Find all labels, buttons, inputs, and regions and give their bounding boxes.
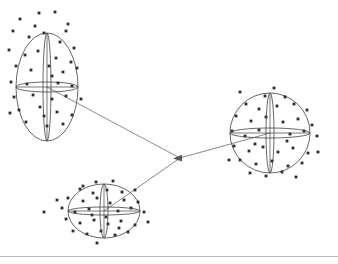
datapoint (118, 227, 121, 230)
datapoint (67, 23, 70, 26)
datapoint (28, 36, 31, 39)
datapoint (282, 121, 285, 124)
datapoint (62, 71, 65, 74)
datapoint (70, 61, 73, 64)
datapoint (277, 151, 280, 154)
datapoint (276, 105, 279, 108)
datapoint (15, 65, 18, 68)
datapoint (264, 95, 267, 98)
datapoint (56, 199, 59, 202)
datapoint (112, 180, 115, 183)
datapoint (82, 200, 85, 203)
datapoint (254, 143, 257, 146)
datapoint (76, 67, 79, 70)
datapoint (239, 159, 242, 162)
datapoint (65, 30, 68, 33)
datapoint (114, 234, 117, 237)
datapoint (86, 233, 89, 236)
connectors-layer (47, 87, 270, 211)
datapoint (71, 114, 74, 117)
datapoint (265, 175, 268, 178)
datapoint (109, 202, 112, 205)
datapoint (32, 94, 35, 97)
datapoint (92, 192, 95, 195)
datapoint (127, 231, 130, 234)
datapoint (24, 54, 27, 57)
datapoint (73, 47, 76, 50)
cluster-right-points (228, 87, 320, 179)
datapoint (12, 30, 15, 33)
clusters-layer (8, 11, 320, 245)
datapoint (56, 111, 59, 114)
datapoint (79, 222, 82, 225)
datapoint (120, 220, 123, 223)
datapoint (18, 109, 21, 112)
datapoint (10, 81, 13, 84)
datapoint (295, 176, 298, 179)
datapoint (37, 50, 40, 53)
datapoint (96, 242, 99, 245)
datapoint (38, 12, 41, 15)
datapoint (311, 124, 314, 127)
datapoint (9, 112, 12, 115)
datapoint (293, 103, 296, 106)
datapoint (80, 98, 83, 101)
connector-bottom-to-junction (104, 158, 180, 211)
datapoint (34, 25, 37, 28)
datapoint (25, 121, 28, 124)
datapoint (233, 145, 236, 148)
datapoint (134, 224, 137, 227)
connector-top-left-to-junction (47, 87, 180, 158)
datapoint (96, 197, 99, 200)
datapoint (249, 172, 252, 175)
datapoint (62, 123, 65, 126)
cluster-top-left-points (8, 11, 83, 128)
datapoint (43, 32, 46, 35)
datapoint (61, 207, 64, 210)
datapoint (48, 65, 51, 68)
datapoint (255, 163, 258, 166)
datapoint (65, 95, 68, 98)
datapoint (317, 151, 320, 154)
datapoint (134, 189, 137, 192)
junction-arrowhead (173, 155, 182, 162)
datapoint (301, 162, 304, 165)
datapoint (54, 11, 57, 14)
datapoint (292, 147, 295, 150)
datapoint (297, 118, 300, 121)
datapoint (239, 91, 242, 94)
datapoint (307, 152, 310, 155)
diagram-canvas (0, 0, 338, 264)
datapoint (245, 103, 248, 106)
datapoint (95, 181, 98, 184)
cluster-network-diagram (0, 0, 338, 264)
datapoint (143, 211, 146, 214)
cluster-top-left (8, 11, 83, 141)
datapoint (8, 49, 11, 52)
connector-junction-to-right (180, 133, 270, 158)
datapoint (273, 87, 276, 90)
datapoint (235, 115, 238, 118)
datapoint (30, 69, 33, 72)
cluster-right (228, 87, 320, 179)
datapoint (123, 199, 126, 202)
junction-node-dot (178, 156, 181, 159)
datapoint (306, 109, 309, 112)
datapoint (316, 135, 319, 138)
datapoint (248, 150, 251, 153)
datapoint (72, 230, 75, 233)
datapoint (107, 223, 110, 226)
datapoint (121, 191, 124, 194)
datapoint (284, 96, 287, 99)
datapoint (39, 106, 42, 109)
datapoint (59, 41, 62, 44)
datapoint (65, 218, 68, 221)
datapoint (43, 211, 46, 214)
datapoint (287, 165, 290, 168)
datapoint (281, 171, 284, 174)
datapoint (250, 120, 253, 123)
datapoint (286, 140, 289, 143)
datapoint (88, 208, 91, 211)
datapoint (19, 18, 22, 21)
datapoint (137, 201, 140, 204)
